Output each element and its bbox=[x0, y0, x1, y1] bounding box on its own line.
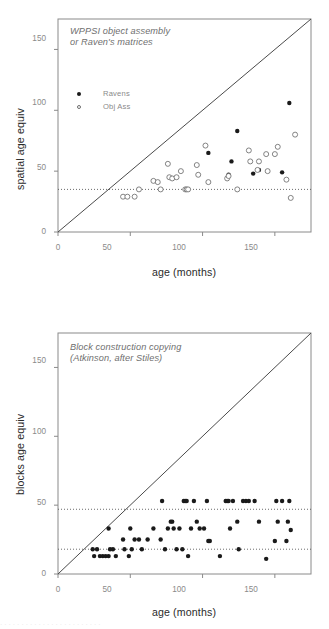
data-point bbox=[194, 163, 199, 168]
data-point bbox=[206, 151, 210, 155]
data-point bbox=[192, 499, 196, 503]
data-point bbox=[189, 526, 193, 530]
data-point bbox=[256, 159, 261, 164]
data-point bbox=[127, 554, 131, 558]
data-point bbox=[255, 167, 260, 172]
data-point bbox=[226, 499, 230, 503]
data-point bbox=[155, 180, 160, 185]
data-point bbox=[202, 526, 206, 530]
series-ravens bbox=[206, 101, 291, 177]
plot-canvas-bottom bbox=[0, 300, 329, 629]
data-point bbox=[137, 537, 141, 541]
data-point bbox=[257, 519, 261, 523]
data-point bbox=[136, 187, 141, 192]
data-point bbox=[171, 526, 175, 530]
data-point bbox=[178, 169, 183, 174]
data-point bbox=[132, 537, 136, 541]
data-point bbox=[235, 519, 239, 523]
data-point bbox=[174, 175, 179, 180]
data-point bbox=[235, 129, 239, 133]
data-point bbox=[128, 526, 132, 530]
data-point bbox=[186, 554, 190, 558]
chart-panel-bottom: blocks age equiv 0 50 100 150 0 50 100 1… bbox=[0, 300, 329, 629]
data-point bbox=[170, 519, 174, 523]
data-point bbox=[121, 537, 125, 541]
data-point bbox=[166, 526, 170, 530]
data-point bbox=[125, 194, 130, 199]
data-point bbox=[130, 547, 134, 551]
data-point bbox=[132, 194, 137, 199]
data-point bbox=[197, 526, 201, 530]
data-point bbox=[235, 187, 240, 192]
data-point bbox=[122, 547, 126, 551]
data-point bbox=[284, 177, 289, 182]
data-point bbox=[247, 499, 251, 503]
data-point bbox=[272, 152, 277, 157]
series-obj-ass bbox=[121, 132, 298, 200]
data-point bbox=[177, 526, 181, 530]
data-point bbox=[145, 537, 149, 541]
data-point bbox=[208, 539, 212, 543]
data-point bbox=[287, 499, 291, 503]
plot-canvas-top bbox=[0, 0, 329, 300]
data-point bbox=[160, 499, 164, 503]
data-point bbox=[158, 537, 162, 541]
data-point bbox=[203, 143, 208, 148]
data-point bbox=[226, 174, 231, 179]
data-point bbox=[252, 499, 256, 503]
data-point bbox=[284, 539, 288, 543]
data-point bbox=[140, 547, 144, 551]
data-point bbox=[264, 152, 269, 157]
data-point bbox=[92, 554, 96, 558]
data-point bbox=[205, 499, 209, 503]
data-point bbox=[206, 180, 211, 185]
data-point bbox=[275, 144, 280, 149]
data-point bbox=[106, 554, 110, 558]
data-point bbox=[286, 519, 290, 523]
data-point bbox=[114, 554, 118, 558]
data-point bbox=[280, 170, 284, 174]
data-point bbox=[151, 526, 155, 530]
figure-page: spatial age equiv 0 50 100 150 0 50 100 … bbox=[0, 0, 329, 629]
data-point bbox=[95, 547, 99, 551]
data-point bbox=[196, 172, 201, 177]
series-blocks bbox=[91, 499, 293, 561]
data-point bbox=[264, 557, 268, 561]
data-point bbox=[195, 519, 199, 523]
data-point bbox=[251, 171, 255, 175]
data-point bbox=[165, 161, 170, 166]
data-point bbox=[163, 547, 167, 551]
data-point bbox=[184, 499, 188, 503]
data-point bbox=[180, 547, 184, 551]
data-point bbox=[106, 526, 110, 530]
data-point bbox=[288, 195, 293, 200]
data-point bbox=[276, 519, 280, 523]
data-point bbox=[293, 132, 298, 137]
data-point bbox=[186, 187, 191, 192]
data-point bbox=[111, 547, 115, 551]
data-point bbox=[287, 101, 291, 105]
data-point bbox=[280, 499, 284, 503]
data-point bbox=[228, 526, 232, 530]
scan-artifact-footer: · · · · · · · · · · · · · · · · · · · · … bbox=[0, 621, 329, 629]
chart-panel-top: spatial age equiv 0 50 100 150 0 50 100 … bbox=[0, 0, 329, 300]
data-point bbox=[248, 159, 253, 164]
data-point bbox=[246, 148, 251, 153]
data-point bbox=[218, 554, 222, 558]
data-point bbox=[158, 187, 163, 192]
data-point bbox=[237, 547, 241, 551]
data-point bbox=[289, 528, 293, 532]
data-point bbox=[273, 539, 277, 543]
data-point bbox=[274, 499, 278, 503]
data-point bbox=[174, 547, 178, 551]
data-point bbox=[231, 499, 235, 503]
data-point bbox=[265, 169, 270, 174]
data-point bbox=[91, 547, 95, 551]
data-point bbox=[229, 159, 233, 163]
